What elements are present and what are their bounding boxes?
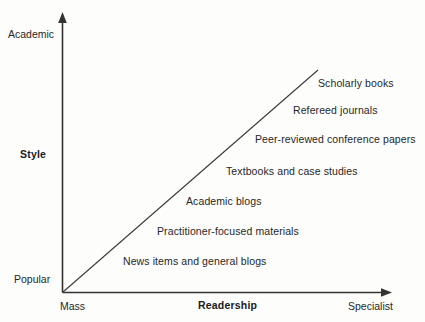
x-axis-min-label: Mass [60,300,85,312]
axes-and-trendline [0,0,425,322]
annotation-label: Scholarly books [318,77,394,89]
annotation-label: Peer-reviewed conference papers [255,133,416,145]
x-axis-title: Readership [198,299,257,311]
x-axis-arrowhead [381,288,392,297]
annotation-label: News items and general blogs [123,255,266,267]
y-axis-title: Style [20,148,46,160]
y-axis-max-label: Academic [8,28,54,40]
annotation-label: Academic blogs [186,195,262,207]
x-axis-max-label: Specialist [348,300,393,312]
diagram-canvas: Academic Popular Style Mass Specialist R… [0,0,425,322]
y-axis-min-label: Popular [14,273,50,285]
annotation-label: Textbooks and case studies [226,165,358,177]
annotation-label: Practitioner-focused materials [157,225,299,237]
annotation-label: Refereed journals [293,104,378,116]
y-axis-arrowhead [58,12,67,23]
